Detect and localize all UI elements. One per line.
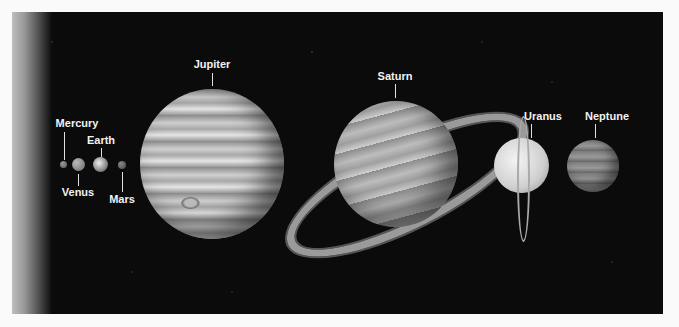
label-earth: Earth (87, 134, 115, 146)
label-venus: Venus (62, 186, 94, 198)
tick-venus (78, 174, 79, 186)
planet-mars (118, 161, 126, 169)
tick-uranus (531, 124, 532, 138)
label-mars: Mars (109, 193, 135, 205)
tick-neptune (595, 124, 596, 138)
label-saturn: Saturn (378, 70, 413, 82)
planet-jupiter (140, 89, 284, 239)
tick-mars (122, 172, 123, 192)
tick-earth (101, 148, 102, 157)
solar-system-diagram: Mercury Venus Earth Mars Jupiter Saturn … (12, 12, 663, 314)
tick-jupiter (212, 73, 213, 86)
planet-mercury (60, 161, 67, 168)
label-mercury: Mercury (56, 117, 99, 129)
planet-saturn (334, 101, 458, 227)
label-jupiter: Jupiter (194, 58, 231, 70)
planet-earth (93, 157, 108, 172)
planet-neptune (567, 140, 619, 192)
planet-venus (72, 158, 85, 171)
tick-mercury (64, 132, 65, 160)
label-uranus: Uranus (524, 110, 562, 122)
label-neptune: Neptune (585, 110, 629, 122)
tick-saturn (395, 84, 396, 98)
uranus-ring (517, 116, 530, 242)
